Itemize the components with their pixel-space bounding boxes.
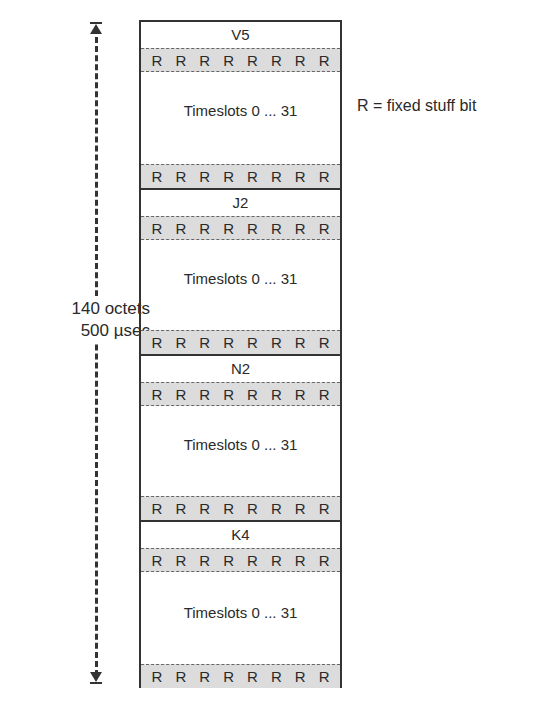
stuff-bit: R [292, 500, 308, 517]
stuff-bit: R [221, 220, 237, 237]
stuff-bit: R [292, 52, 308, 69]
stuff-bit: R [244, 168, 260, 185]
stuff-row-top: RRRRRRRR [141, 548, 340, 572]
stuff-bit: R [197, 500, 213, 517]
stuff-bit: R [197, 552, 213, 569]
stuff-row-top: RRRRRRRR [141, 382, 340, 406]
timeslots-label: Timeslots 0 ... 31 [141, 436, 340, 453]
stuff-bit: R [221, 500, 237, 517]
stuff-bit: R [244, 668, 260, 685]
stuff-bit: R [197, 220, 213, 237]
stuff-bit: R [149, 552, 165, 569]
stuff-row-bottom: RRRRRRRR [141, 164, 340, 188]
stuff-bit: R [268, 552, 284, 569]
stuff-bit: R [316, 220, 332, 237]
stuff-row-top: RRRRRRRR [141, 216, 340, 240]
stuff-bit: R [244, 220, 260, 237]
block-header: N2 [141, 356, 340, 382]
stuff-bit: R [316, 500, 332, 517]
stuff-bit: R [173, 168, 189, 185]
stuff-bit: R [292, 552, 308, 569]
stuff-bit: R [221, 168, 237, 185]
stuff-bit: R [221, 668, 237, 685]
legend-label: R = fixed stuff bit [357, 97, 476, 115]
stuff-bit: R [316, 334, 332, 351]
stuff-bit: R [268, 668, 284, 685]
arrow-dashed-line [95, 28, 98, 676]
stuff-bit: R [221, 334, 237, 351]
multiframe: V5 RRRRRRRR Timeslots 0 ... 31 RRRRRRRR … [139, 20, 342, 688]
stuff-bit: R [197, 168, 213, 185]
stuff-bit: R [221, 386, 237, 403]
stuff-bit: R [149, 668, 165, 685]
stuff-bit: R [316, 386, 332, 403]
stuff-bit: R [173, 220, 189, 237]
block-header: V5 [141, 22, 340, 48]
stuff-bit: R [268, 500, 284, 517]
stuff-bit: R [149, 52, 165, 69]
arrow-bottom-cap [90, 682, 102, 684]
stuff-bit: R [173, 386, 189, 403]
stuff-row-bottom: RRRRRRRR [141, 664, 340, 688]
stuff-bit: R [316, 168, 332, 185]
stuff-bit: R [149, 334, 165, 351]
stuff-bit: R [292, 220, 308, 237]
stuff-bit: R [268, 334, 284, 351]
stuff-bit: R [173, 500, 189, 517]
stuff-bit: R [149, 168, 165, 185]
stuff-bit: R [221, 552, 237, 569]
block-v5: V5 RRRRRRRR Timeslots 0 ... 31 RRRRRRRR [141, 22, 340, 188]
stuff-bit: R [316, 668, 332, 685]
stuff-bit: R [197, 52, 213, 69]
stuff-bit: R [197, 668, 213, 685]
block-header: J2 [141, 190, 340, 216]
stuff-bit: R [268, 168, 284, 185]
stuff-bit: R [316, 552, 332, 569]
stuff-bit: R [244, 386, 260, 403]
stuff-bit: R [197, 334, 213, 351]
stuff-row-bottom: RRRRRRRR [141, 330, 340, 354]
arrow-down-icon [90, 672, 102, 682]
block-header: K4 [141, 522, 340, 548]
timeslots-label: Timeslots 0 ... 31 [141, 102, 340, 119]
stuff-bit: R [268, 220, 284, 237]
stuff-row-top: RRRRRRRR [141, 48, 340, 72]
stuff-bit: R [292, 386, 308, 403]
timeslots-label: Timeslots 0 ... 31 [141, 604, 340, 621]
stuff-bit: R [149, 500, 165, 517]
stuff-bit: R [173, 52, 189, 69]
stuff-bit: R [173, 668, 189, 685]
stuff-bit: R [244, 334, 260, 351]
timeslots-label: Timeslots 0 ... 31 [141, 270, 340, 287]
stuff-bit: R [197, 386, 213, 403]
block-j2: J2 RRRRRRRR Timeslots 0 ... 31 RRRRRRRR [141, 188, 340, 356]
stuff-row-bottom: RRRRRRRR [141, 496, 340, 520]
stuff-bit: R [292, 168, 308, 185]
block-n2: N2 RRRRRRRR Timeslots 0 ... 31 RRRRRRRR [141, 354, 340, 522]
stuff-bit: R [149, 386, 165, 403]
stuff-bit: R [292, 668, 308, 685]
stuff-bit: R [316, 52, 332, 69]
stuff-bit: R [149, 220, 165, 237]
block-k4: K4 RRRRRRRR Timeslots 0 ... 31 RRRRRRRR [141, 520, 340, 688]
stuff-bit: R [173, 334, 189, 351]
stuff-bit: R [244, 52, 260, 69]
stuff-bit: R [268, 386, 284, 403]
stuff-bit: R [292, 334, 308, 351]
stuff-bit: R [244, 500, 260, 517]
stuff-bit: R [268, 52, 284, 69]
stuff-bit: R [244, 552, 260, 569]
stuff-bit: R [221, 52, 237, 69]
stuff-bit: R [173, 552, 189, 569]
